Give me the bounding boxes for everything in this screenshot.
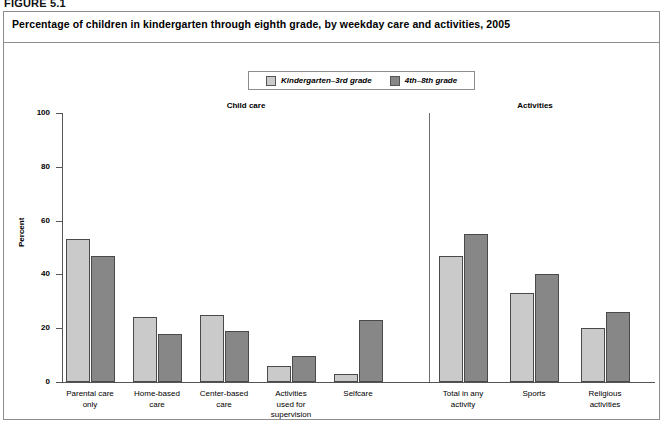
figure-title: Percentage of children in kindergarten t… <box>12 18 510 30</box>
bar-group <box>267 113 316 382</box>
y-tick-label: 20 <box>28 323 50 332</box>
bar <box>334 374 358 382</box>
x-axis-category-label: Religiousactivities <box>589 389 622 410</box>
x-axis-line <box>62 382 655 383</box>
bar <box>133 317 157 382</box>
y-tick-label: 0 <box>28 377 50 386</box>
bar <box>510 293 534 382</box>
legend-label-4th-8th-grade: 4th–8th grade <box>405 76 457 85</box>
bar <box>267 366 291 382</box>
x-axis-category-label: Home-basedcare <box>134 389 180 410</box>
bar-group <box>200 113 249 382</box>
x-axis-category-label: Parental careonly <box>66 389 114 410</box>
bar <box>439 256 463 382</box>
y-tick-label: 40 <box>28 269 50 278</box>
bar <box>225 331 249 382</box>
y-tick-label: 60 <box>28 216 50 225</box>
x-axis-category-label: Activitiesused forsupervision <box>271 389 311 421</box>
x-axis-category-label: Selfcare <box>343 389 372 400</box>
bar <box>359 320 383 382</box>
bar-group <box>334 113 383 382</box>
bar <box>535 274 559 382</box>
legend-item-4th-8th-grade: 4th–8th grade <box>390 76 457 86</box>
bar <box>464 234 488 382</box>
bar-group <box>133 113 182 382</box>
bar <box>581 328 605 382</box>
figure-label: FIGURE 5.1 <box>4 0 66 9</box>
legend-swatch-light <box>266 76 276 86</box>
y-tick-label: 80 <box>28 162 50 171</box>
section-heading-child-care: Child care <box>227 101 266 110</box>
bar <box>292 356 316 382</box>
chart-legend: Kindergarten–3rd grade 4th–8th grade <box>248 71 475 90</box>
bar <box>158 334 182 382</box>
x-axis-category-label: Center-basedcare <box>200 389 248 410</box>
bar-group <box>66 113 115 382</box>
x-axis-category-label: Sports <box>522 389 545 400</box>
title-divider <box>4 42 659 43</box>
bar <box>91 256 115 382</box>
y-tick-label: 100 <box>28 108 50 117</box>
legend-swatch-dark <box>390 76 400 86</box>
y-tick-mark <box>56 382 62 383</box>
plot-area <box>62 113 654 382</box>
legend-item-kindergarten-3rd-grade: Kindergarten–3rd grade <box>266 76 372 86</box>
bar-group <box>581 113 630 382</box>
section-heading-activities: Activities <box>517 101 553 110</box>
y-axis-title: Percent <box>17 218 26 247</box>
legend-label-kindergarten-3rd-grade: Kindergarten–3rd grade <box>281 76 372 85</box>
bar-group <box>510 113 559 382</box>
bar <box>606 312 630 382</box>
x-axis-category-label: Total in anyactivity <box>443 389 483 410</box>
bar-group <box>439 113 488 382</box>
bar <box>66 239 90 382</box>
bar <box>200 315 224 382</box>
